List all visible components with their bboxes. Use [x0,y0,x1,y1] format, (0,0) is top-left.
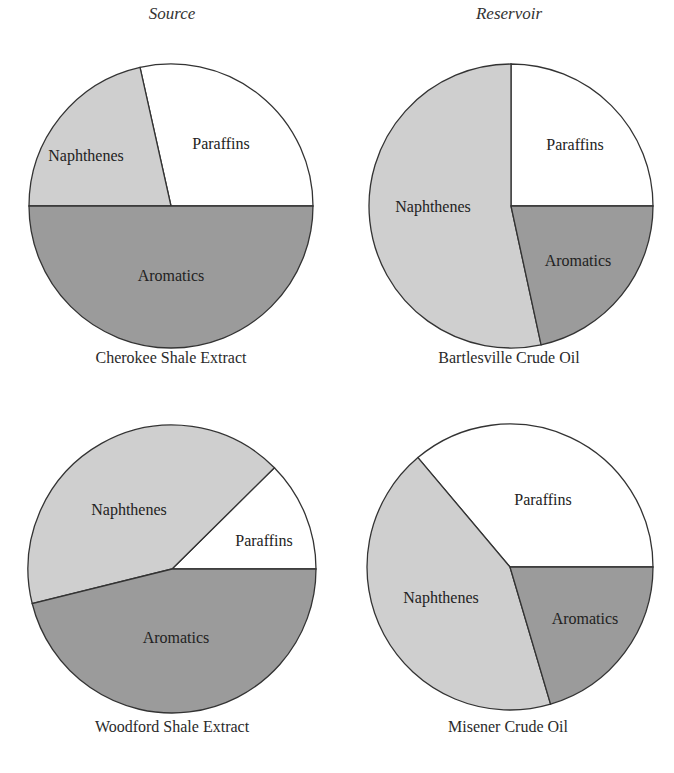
slice-label-paraffins: Paraffins [514,491,571,508]
slice-label-naphthenes: Naphthenes [403,589,479,607]
pie-chart-misener-crude-oil: ParaffinsNaphthenesAromatics [0,0,674,773]
pie-caption-misener-crude-oil: Misener Crude Oil [358,718,658,736]
slice-label-aromatics: Aromatics [552,610,619,627]
